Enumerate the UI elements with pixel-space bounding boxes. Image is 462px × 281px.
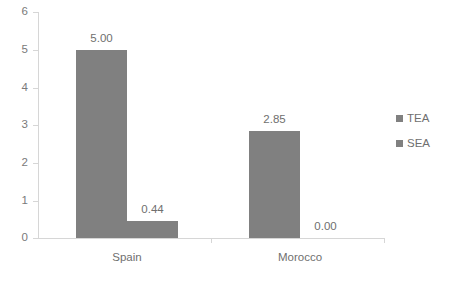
y-tick-mark-1: [33, 201, 38, 202]
legend-swatch-icon-tea: [396, 115, 403, 122]
bar-label-spain-sea: 0.44: [127, 204, 178, 216]
x-tick-mark-separator: [211, 238, 212, 243]
y-tick-label-2: 2: [2, 157, 28, 169]
y-tick-label-3: 3: [2, 119, 28, 131]
x-category-label-spain: Spain: [97, 252, 157, 264]
x-tick-mark-end: [384, 238, 385, 243]
bar-spain-sea: [127, 221, 178, 238]
legend-item-sea: SEA: [396, 138, 430, 150]
y-tick-label-0: 0: [2, 232, 28, 244]
y-tick-mark-4: [33, 88, 38, 89]
clipped-caption-strip: [0, 272, 462, 281]
bar-spain-tea: [76, 50, 127, 238]
bar-chart-plot-area: 6 5 4 3 2 1 0 5.00 0.44 Spain 2.85 0.00 …: [0, 0, 462, 281]
legend-label-sea: SEA: [407, 138, 430, 150]
y-tick-mark-6: [33, 12, 38, 13]
bar-label-spain-tea: 5.00: [76, 33, 127, 45]
x-category-label-morocco: Morocco: [270, 252, 330, 264]
y-tick-label-4: 4: [2, 82, 28, 94]
y-tick-label-6: 6: [2, 6, 28, 18]
y-tick-label-1: 1: [2, 195, 28, 207]
y-tick-mark-3: [33, 125, 38, 126]
bar-morocco-tea: [249, 131, 300, 238]
bar-label-morocco-tea: 2.85: [249, 114, 300, 126]
y-tick-mark-0: [33, 238, 38, 239]
legend-item-tea: TEA: [396, 113, 430, 125]
bar-label-morocco-sea: 0.00: [300, 221, 351, 233]
legend-label-tea: TEA: [407, 113, 429, 125]
y-tick-mark-5: [33, 50, 38, 51]
chart-figure: 6 5 4 3 2 1 0 5.00 0.44 Spain 2.85 0.00 …: [0, 0, 462, 281]
y-axis-line: [38, 12, 39, 238]
legend-swatch-icon-sea: [396, 140, 403, 147]
y-tick-mark-2: [33, 163, 38, 164]
y-tick-label-5: 5: [2, 44, 28, 56]
chart-legend: TEA SEA: [396, 113, 430, 162]
